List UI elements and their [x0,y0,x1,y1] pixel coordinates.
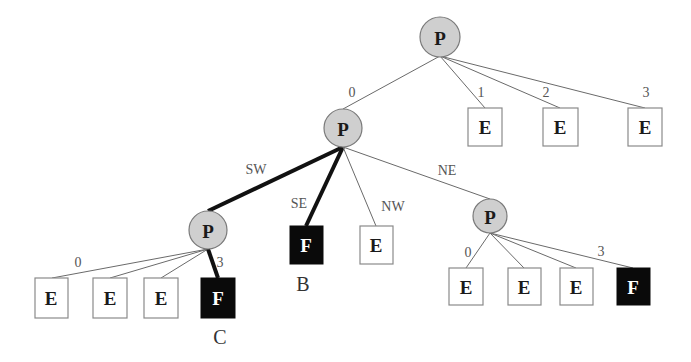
node-ne0-empty: E [449,268,483,305]
node-ne-label: P [484,207,496,228]
node-ne2-empty: E [560,268,593,305]
edge-root-r1 [440,56,485,108]
node-sw0-empty: E [35,278,68,318]
node-nw-label: E [370,235,383,256]
node-se-full: F [290,226,323,264]
edge-n0-nw [343,147,376,226]
node-ne2-label: E [570,277,583,298]
node-root-label: P [434,28,446,49]
edge-label-root-1: 1 [478,85,485,100]
node-nw-empty: E [360,226,393,264]
node-sw2-empty: E [144,278,178,318]
edge-label-sw-3: 3 [217,255,224,270]
node-sw-partial: P [189,211,227,249]
node-ne1-empty: E [508,268,541,305]
node-ne1-label: E [518,277,531,298]
edge-ne-ne3 [490,233,633,268]
node-r2-empty: E [543,108,578,146]
node-name-c: C [213,326,226,348]
node-sw1-empty: E [93,278,127,318]
edge-label-nw: NW [381,199,405,214]
edge-label-root-2: 2 [543,85,550,100]
edge-n0-sw [208,147,343,211]
edge-ne-ne1 [490,233,524,268]
node-n0-label: P [337,119,349,140]
edge-label-sw-0: 0 [75,255,82,270]
node-r3-label: E [639,117,652,138]
node-n0-partial: P [324,109,362,147]
edge-n0-ne [343,147,490,199]
node-r3-empty: E [628,108,662,146]
node-sw2-label: E [155,288,168,309]
node-sw3-full: F [201,278,235,318]
node-ne3-label: F [627,277,639,298]
edge-label-se: SE [291,196,307,211]
node-ne0-label: E [460,277,473,298]
node-root-partial: P [420,17,460,57]
edge-label-ne-3: 3 [598,244,605,259]
node-se-label: F [300,235,312,256]
quadtree-diagram: 0 1 2 3 SW SE NW NE 0 3 0 3 P E E E P P … [0,0,691,362]
edge-label-sw: SW [246,162,268,177]
node-sw0-label: E [45,288,58,309]
edge-label-root-3: 3 [643,85,650,100]
node-r1-empty: E [468,108,502,146]
node-sw1-label: E [104,288,117,309]
node-ne3-full: F [617,268,650,305]
node-sw3-label: F [212,288,224,309]
node-name-b: B [296,273,309,295]
edge-label-ne: NE [438,163,457,178]
edge-root-n0 [343,56,440,109]
node-ne-partial: P [473,199,507,233]
edge-label-root-0: 0 [349,85,356,100]
edge-n0-se [306,147,343,226]
node-r2-label: E [554,117,567,138]
node-r1-label: E [479,117,492,138]
edge-label-ne-0: 0 [465,245,472,260]
edge-sw-sw1 [110,249,208,278]
node-sw-label: P [202,221,214,242]
